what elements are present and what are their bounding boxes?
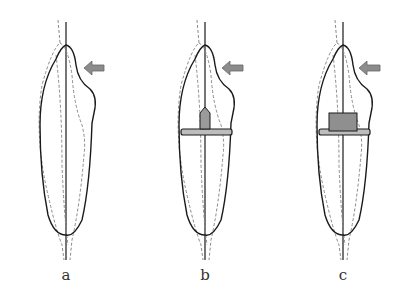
panel-b	[178, 20, 243, 260]
panel-label-b: b	[200, 266, 210, 284]
panel-c	[316, 20, 380, 260]
panel-a	[39, 20, 104, 260]
panel-label-c: c	[339, 266, 347, 284]
force-arrow-icon	[222, 61, 243, 75]
force-arrow-icon	[84, 61, 104, 75]
panel-label-a: a	[62, 266, 71, 284]
diagram-canvas	[0, 0, 404, 301]
core-band	[181, 129, 232, 135]
core-block	[329, 113, 357, 131]
force-arrow-icon	[359, 61, 380, 75]
post	[200, 107, 210, 129]
